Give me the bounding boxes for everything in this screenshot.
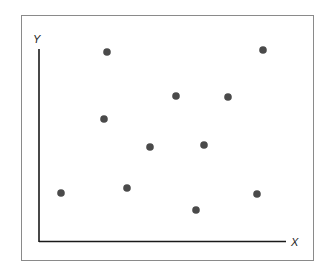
data-point xyxy=(253,190,261,198)
data-point xyxy=(146,143,154,151)
data-point xyxy=(224,93,232,101)
data-point xyxy=(103,48,111,56)
data-point xyxy=(172,92,180,100)
data-point xyxy=(57,189,65,197)
data-point xyxy=(100,115,108,123)
data-point xyxy=(123,184,131,192)
data-point xyxy=(200,141,208,149)
data-points xyxy=(57,46,267,214)
x-axis-label: X xyxy=(290,236,299,248)
scatter-plot: Y X xyxy=(0,0,330,269)
data-point xyxy=(259,46,267,54)
y-axis-label: Y xyxy=(33,33,41,45)
data-point xyxy=(192,206,200,214)
